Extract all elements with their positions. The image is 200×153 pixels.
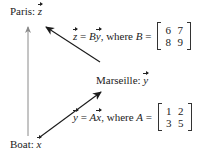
matrix-b-cell: 7 [174, 24, 186, 36]
matrix-a: 1 2 3 5 [158, 103, 192, 131]
matrix-b: 6 7 8 9 [157, 22, 191, 50]
paris-vector: z [38, 5, 42, 17]
eq-top-equals: = [77, 30, 89, 42]
marseille-label: Marseille: y [96, 74, 148, 86]
paris-name: Paris: [10, 5, 35, 17]
eq-bottom-where: , where [101, 111, 136, 123]
eq-top-rhs: y [96, 30, 101, 42]
boat-label: Boat: x [10, 138, 41, 150]
marseille-vector: y [143, 74, 148, 86]
matrix-a-cell: 3 [163, 117, 175, 129]
eq-bottom-matname: A [136, 111, 143, 123]
boat-vector: x [37, 138, 42, 150]
bracket-left [157, 22, 161, 50]
matrix-b-cell: 6 [162, 24, 174, 36]
bracket-right [188, 103, 192, 131]
eq-top-equals2: = [142, 30, 154, 42]
eq-bottom-lhs: y [73, 111, 78, 123]
paris-label: Paris: z [10, 5, 42, 17]
eq-bottom-equals2: = [143, 111, 155, 123]
matrix-a-cell: 5 [175, 117, 187, 129]
matrix-a-cell: 2 [175, 105, 187, 117]
eq-top-matname: B [136, 30, 143, 42]
eq-bottom-rhs: x [96, 111, 101, 123]
equation-top: z = By , where B = 6 7 8 9 [73, 22, 191, 50]
marseille-name: Marseille: [96, 74, 141, 86]
matrix-b-cell: 8 [162, 36, 174, 48]
eq-top-matrix-symbol: B [89, 30, 96, 42]
bracket-right [187, 22, 191, 50]
matrix-a-cell: 1 [163, 105, 175, 117]
eq-top-lhs: z [73, 30, 77, 42]
equation-bottom: y = Ax , where A = 1 2 3 5 [73, 103, 192, 131]
eq-top-where: , where [101, 30, 136, 42]
boat-name: Boat: [10, 138, 34, 150]
bracket-left [158, 103, 162, 131]
matrix-b-cell: 9 [174, 36, 186, 48]
eq-bottom-equals: = [78, 111, 90, 123]
